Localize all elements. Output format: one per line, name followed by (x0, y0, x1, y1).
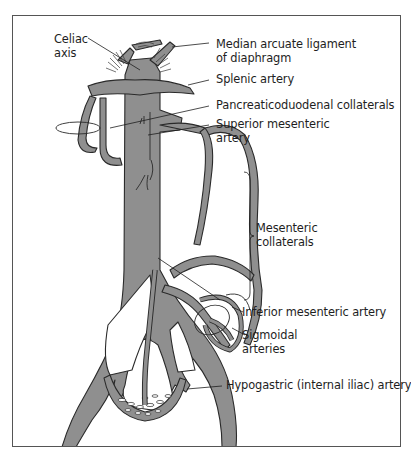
label-line: Hypogastric (internal iliac) artery (226, 379, 411, 393)
label-median-arcuate-ligament: Median arcuate ligament of diaphragm (216, 38, 356, 65)
label-line: of diaphragm (216, 52, 356, 66)
label-line: artery (216, 132, 330, 146)
label-line: Splenic artery (216, 73, 294, 87)
label-line: Pancreaticoduodenal collaterals (216, 99, 394, 113)
label-line: collaterals (256, 236, 318, 250)
label-pancreaticoduodenal-collaterals: Pancreaticoduodenal collaterals (216, 99, 394, 113)
label-line: Inferior mesenteric artery (242, 306, 386, 320)
label-line: Celiac (54, 33, 88, 47)
label-line: arteries (242, 343, 297, 357)
label-inferior-mesenteric-artery: Inferior mesenteric artery (242, 306, 386, 320)
label-line: Median arcuate ligament (216, 38, 356, 52)
label-celiac-axis: Celiac axis (54, 33, 88, 60)
label-hypogastric-artery: Hypogastric (internal iliac) artery (226, 379, 411, 393)
label-splenic-artery: Splenic artery (216, 73, 294, 87)
splenic-artery (88, 80, 194, 96)
label-line: Superior mesenteric (216, 118, 330, 132)
label-sigmoidal-arteries: Sigmoidal arteries (242, 329, 297, 356)
label-superior-mesenteric-artery: Superior mesenteric artery (216, 118, 330, 145)
label-line: axis (54, 47, 88, 61)
label-line: Mesenteric (256, 222, 318, 236)
label-mesenteric-collaterals: Mesenteric collaterals (256, 222, 318, 249)
label-line: Sigmoidal (242, 329, 297, 343)
